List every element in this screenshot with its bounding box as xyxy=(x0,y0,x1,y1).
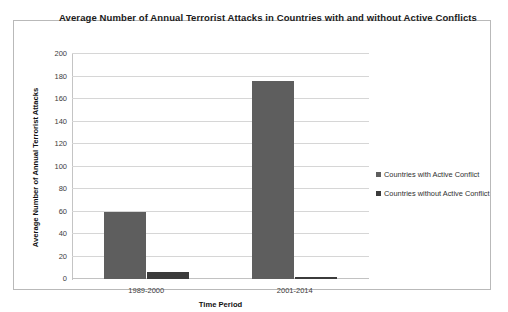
legend-swatch-icon xyxy=(376,172,381,177)
y-axis-tick-label: 160 xyxy=(54,94,67,103)
chart-container: Average Number of Annual Terrorist Attac… xyxy=(13,20,491,290)
gridline: 120 xyxy=(72,143,369,144)
y-axis-tick-label: 20 xyxy=(59,251,67,260)
y-axis-tick-label: 0 xyxy=(63,274,67,283)
y-axis-tick-label: 180 xyxy=(54,71,67,80)
legend-entry[interactable]: Countries with Active Conflict xyxy=(376,170,490,179)
y-axis-tick-label: 100 xyxy=(54,161,67,170)
gridline: 180 xyxy=(72,76,369,77)
legend-label: Countries with Active Conflict xyxy=(384,170,479,179)
gridline: 160 xyxy=(72,98,369,99)
bar xyxy=(104,212,146,280)
y-axis-tick-label: 40 xyxy=(59,229,67,238)
plot-area: 0204060801001201401601802001989-20002001… xyxy=(72,54,369,279)
gridline: 200 xyxy=(72,53,369,54)
bar xyxy=(147,272,189,279)
y-axis-tick-label: 80 xyxy=(59,184,67,193)
gridline: 100 xyxy=(72,166,369,167)
gridline: 80 xyxy=(72,188,369,189)
y-axis-tick-label: 120 xyxy=(54,139,67,148)
legend-swatch-icon xyxy=(376,191,381,196)
x-axis-title: Time Period xyxy=(72,300,369,309)
bar xyxy=(295,277,337,279)
y-axis-title: Average Number of Annual Terrorist Attac… xyxy=(30,54,42,280)
bar xyxy=(252,81,294,279)
y-axis-tick-label: 60 xyxy=(59,206,67,215)
chart-title: Average Number of Annual Terrorist Attac… xyxy=(14,12,508,23)
y-axis-tick-label: 200 xyxy=(54,49,67,58)
gridline: 140 xyxy=(72,121,369,122)
legend-label: Countries without Active Conflict xyxy=(384,189,490,198)
y-axis-tick-label: 140 xyxy=(54,116,67,125)
x-axis-tick-label: 2001-2014 xyxy=(277,286,313,295)
y-axis-title-label: Average Number of Annual Terrorist Attac… xyxy=(32,87,41,246)
x-axis-tick-label: 1989-2000 xyxy=(128,286,164,295)
chart-legend: Countries with Active ConflictCountries … xyxy=(376,170,490,198)
legend-entry[interactable]: Countries without Active Conflict xyxy=(376,189,490,198)
